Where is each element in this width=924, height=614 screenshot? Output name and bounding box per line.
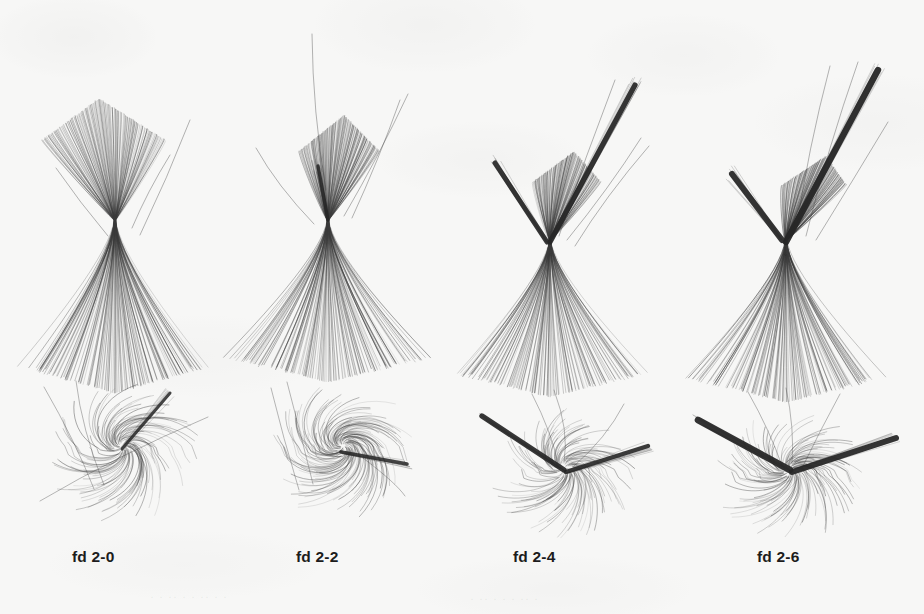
panel-fd-2-4-top (455, 50, 665, 360)
panel-fd-2-2-top (240, 20, 440, 360)
panel-fd-2-2-bottom (255, 372, 440, 517)
panel-caption-2: fd 2-4 (513, 548, 556, 566)
panel-fd-2-6-top (690, 40, 900, 360)
panel-fd-2-0-bottom (30, 365, 220, 515)
panel-caption-3: fd 2-6 (757, 548, 800, 566)
panel-caption-0: fd 2-0 (72, 548, 115, 566)
panel-fd-2-0-top (20, 60, 220, 360)
bleed-through-text-0: · · ·· · · ·· · · (150, 590, 228, 605)
panel-fd-2-6-bottom (690, 386, 905, 526)
caption-row: fd 2-0fd 2-2fd 2-4fd 2-6 (0, 548, 924, 574)
bleed-through-text-1: · ·· · · · ·· · (470, 592, 539, 607)
panel-caption-1: fd 2-2 (296, 548, 339, 566)
panel-fd-2-4-bottom (468, 386, 668, 526)
